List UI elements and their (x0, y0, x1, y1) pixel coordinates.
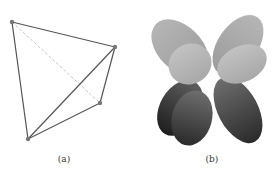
lobed-surface-figure (140, 0, 280, 150)
caption-b: (b) (192, 154, 232, 164)
vertex (10, 20, 14, 24)
vertex (26, 137, 30, 141)
vertex (98, 101, 102, 105)
tetrahedron-figure (0, 0, 140, 150)
hidden-edge (12, 22, 100, 103)
caption-a: (a) (44, 154, 84, 164)
vertex (113, 45, 117, 49)
